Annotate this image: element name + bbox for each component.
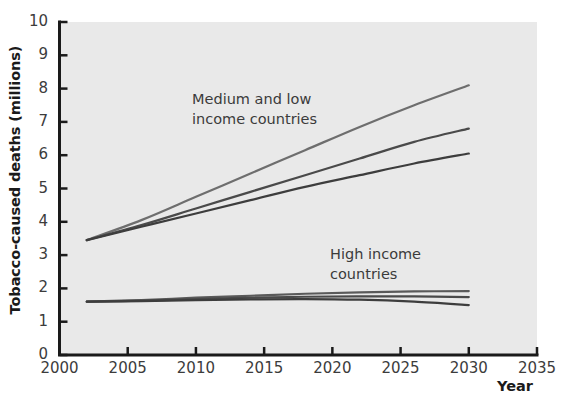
y-tick-label: 3: [22, 245, 48, 263]
y-tick-label: 7: [22, 112, 48, 130]
x-tick-label: 2035: [507, 359, 567, 377]
y-tick-label: 1: [22, 312, 48, 330]
x-tick-label: 2030: [439, 359, 499, 377]
x-tick-label: 2000: [30, 359, 90, 377]
y-tick-label: 8: [22, 79, 48, 97]
annotation-medium-low-income: Medium and low income countries: [192, 90, 317, 129]
y-tick-label: 10: [22, 12, 48, 30]
chart-figure: Tobacco-caused deaths (millions) Year 01…: [0, 0, 567, 407]
x-tick-label: 2010: [166, 359, 226, 377]
y-tick-label: 2: [22, 278, 48, 296]
y-tick-label: 9: [22, 45, 48, 63]
x-tick-label: 2020: [302, 359, 362, 377]
x-tick-label: 2015: [234, 359, 294, 377]
x-axis-title: Year: [497, 378, 533, 394]
x-tick-label: 2005: [98, 359, 158, 377]
y-tick-label: 6: [22, 145, 48, 163]
x-tick-label: 2025: [371, 359, 431, 377]
line-chart-canvas: [0, 0, 567, 407]
y-tick-label: 4: [22, 212, 48, 230]
annotation-high-income: High income countries: [330, 245, 421, 284]
y-tick-label: 5: [22, 179, 48, 197]
